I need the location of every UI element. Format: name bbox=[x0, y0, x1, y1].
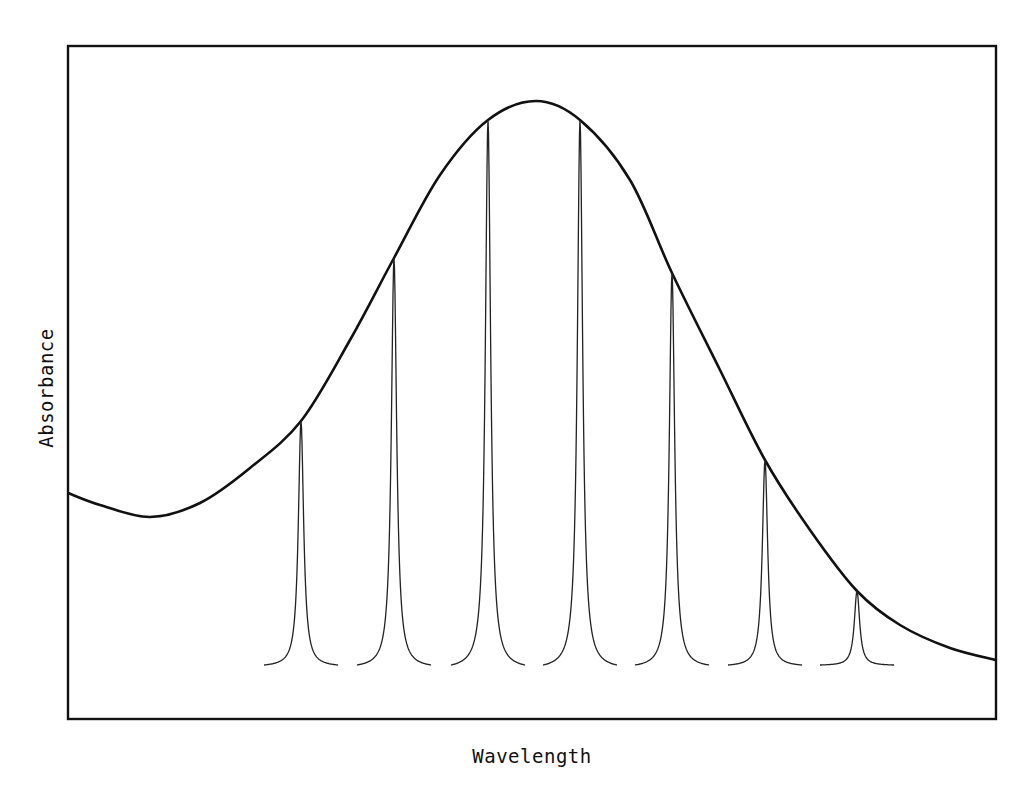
narrow-line-peak-2 bbox=[357, 258, 431, 665]
narrow-line-peak-5 bbox=[635, 273, 709, 665]
spectrum-chart bbox=[0, 0, 1035, 792]
narrow-line-peak-7 bbox=[820, 591, 894, 665]
narrow-line-peak-4 bbox=[543, 120, 617, 665]
narrow-line-peak-6 bbox=[728, 460, 802, 665]
x-axis-label: Wavelength bbox=[472, 745, 591, 767]
y-axis-label: Absorbance bbox=[35, 328, 57, 447]
narrow-line-peak-3 bbox=[451, 120, 525, 665]
broad-band-curve bbox=[68, 101, 996, 660]
plot-frame bbox=[68, 46, 996, 719]
narrow-lines bbox=[264, 120, 894, 665]
narrow-line-peak-1 bbox=[264, 421, 338, 665]
